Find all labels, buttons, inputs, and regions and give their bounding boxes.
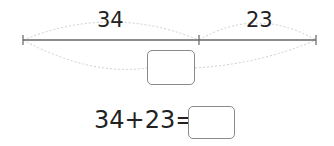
total-answer-box[interactable] [147, 50, 195, 85]
arc-total-right [195, 40, 316, 68]
arc-total-left [23, 40, 147, 69]
equation-answer-box[interactable] [188, 106, 235, 139]
equation-text: 34+23= [94, 108, 195, 132]
segment-label-34: 34 [97, 10, 124, 31]
segment-label-23: 23 [246, 10, 273, 31]
